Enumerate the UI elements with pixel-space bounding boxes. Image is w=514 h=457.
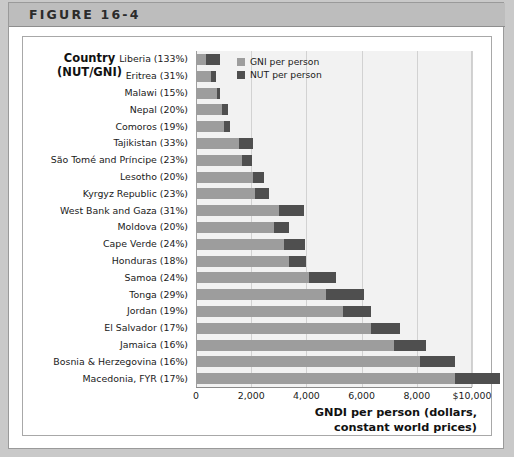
legend-item: GNI per person [237, 55, 322, 68]
bar-segment-nut [394, 340, 426, 351]
bar-segment-gni [196, 54, 206, 65]
bar-segment-gni [196, 256, 289, 267]
bar-segment-gni [196, 88, 217, 99]
category-label: Malawi (15%) [124, 87, 188, 98]
bar-segment-nut [217, 88, 220, 99]
category-label: Bosnia & Herzegovina (16%) [53, 356, 188, 367]
bar-segment-gni [196, 323, 371, 334]
x-tick-label: 8,000 [403, 390, 430, 401]
figure-frame: FIGURE 16-4 Country (NUT/GNI) Liberia (1… [8, 2, 504, 449]
bar-segment-gni [196, 239, 284, 250]
category-label: Kyrgyz Republic (23%) [83, 188, 188, 199]
category-label: Jordan (19%) [127, 305, 188, 316]
bar-segment-gni [196, 121, 224, 132]
x-tick-label: $10,000 [453, 390, 492, 401]
bar-segment-nut [420, 356, 456, 367]
category-label: Lesotho (20%) [120, 171, 188, 182]
x-tick-label: 2,000 [238, 390, 265, 401]
bar-segment-nut [253, 172, 264, 183]
bar-segment-nut [239, 138, 253, 149]
x-axis-line [196, 387, 472, 388]
bar-segment-gni [196, 138, 239, 149]
gridline [251, 51, 252, 387]
bar-segment-nut [279, 205, 305, 216]
category-label: Macedonia, FYR (17%) [83, 373, 188, 384]
category-label: Honduras (18%) [112, 255, 188, 266]
x-axis-title-line-2: constant world prices) [315, 421, 477, 436]
category-label: Jamaica (16%) [120, 339, 188, 350]
category-label: Samoa (24%) [125, 272, 188, 283]
legend-label: NUT per person [250, 69, 322, 80]
bar-segment-gni [196, 155, 242, 166]
x-axis-title: GNDI per person (dollars, constant world… [315, 406, 477, 435]
bar-segment-gni [196, 356, 420, 367]
bar-segment-nut [211, 71, 216, 82]
bar-segment-nut [371, 323, 401, 334]
legend-swatch [237, 58, 245, 66]
bar-segment-gni [196, 340, 394, 351]
category-label: São Tomé and Príncipe (23%) [51, 154, 188, 165]
x-tick-label: 6,000 [348, 390, 375, 401]
bar-segment-gni [196, 373, 455, 384]
category-label: Comoros (19%) [115, 121, 188, 132]
bar-segment-nut [309, 272, 336, 283]
figure-header: FIGURE 16-4 [9, 3, 505, 27]
category-label: Liberia (133%) [119, 53, 188, 64]
chart-panel: Country (NUT/GNI) Liberia (133%)Eritrea … [22, 36, 492, 436]
bar-segment-gni [196, 71, 211, 82]
bar-segment-gni [196, 289, 326, 300]
bar-segment-nut [242, 155, 252, 166]
bar-segment-gni [196, 306, 343, 317]
gridline [306, 51, 307, 387]
chart-legend: GNI per personNUT per person [237, 55, 322, 81]
bar-segment-nut [274, 222, 290, 233]
bar-segment-gni [196, 104, 222, 115]
bar-segment-nut [284, 239, 305, 250]
category-axis-labels: Liberia (133%)Eritrea (31%)Malawi (15%)N… [25, 51, 193, 387]
bar-segment-nut [224, 121, 229, 132]
bar-segment-nut [255, 188, 269, 199]
category-label: Tonga (29%) [129, 289, 188, 300]
bar-segment-gni [196, 272, 309, 283]
bar-segment-nut [289, 256, 306, 267]
bar-segment-nut [343, 306, 371, 317]
category-label: West Bank and Gaza (31%) [60, 205, 188, 216]
bar-segment-nut [222, 104, 227, 115]
bar-segment-nut [455, 373, 499, 384]
x-tick-label: 0 [193, 390, 199, 401]
bar-segment-gni [196, 205, 279, 216]
category-label: Nepal (20%) [130, 104, 188, 115]
legend-swatch [237, 71, 245, 79]
category-label: Eritrea (31%) [126, 70, 188, 81]
x-tick-label: 4,000 [293, 390, 320, 401]
figure-number-label: FIGURE 16-4 [29, 7, 141, 22]
bar-segment-nut [326, 289, 364, 300]
x-axis-title-line-1: GNDI per person (dollars, [315, 406, 477, 421]
bar-segment-gni [196, 188, 255, 199]
category-label: Tajikistan (33%) [113, 137, 188, 148]
bar-segment-gni [196, 172, 253, 183]
category-label: El Salvador (17%) [104, 322, 188, 333]
bar-segment-nut [206, 54, 220, 65]
legend-item: NUT per person [237, 68, 322, 81]
gridline [472, 51, 473, 387]
category-label: Cape Verde (24%) [103, 238, 188, 249]
legend-label: GNI per person [250, 56, 319, 67]
plot-area [196, 51, 472, 387]
gridline [417, 51, 418, 387]
bar-segment-gni [196, 222, 274, 233]
gridline [362, 51, 363, 387]
category-label: Moldova (20%) [117, 221, 188, 232]
